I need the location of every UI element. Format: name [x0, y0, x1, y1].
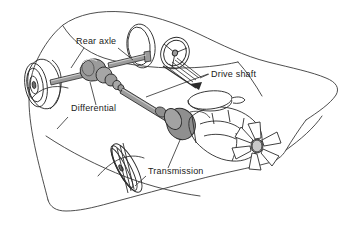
label-differential: Differential — [71, 103, 116, 113]
diagram-canvas: Rear axle Differential Drive shaft Trans… — [0, 0, 355, 234]
label-transmission: Transmission — [148, 166, 204, 176]
label-rear-axle: Rear axle — [76, 36, 116, 46]
label-drive-shaft: Drive shaft — [211, 69, 257, 79]
powertrain-diagram: Rear axle Differential Drive shaft Trans… — [0, 0, 355, 234]
